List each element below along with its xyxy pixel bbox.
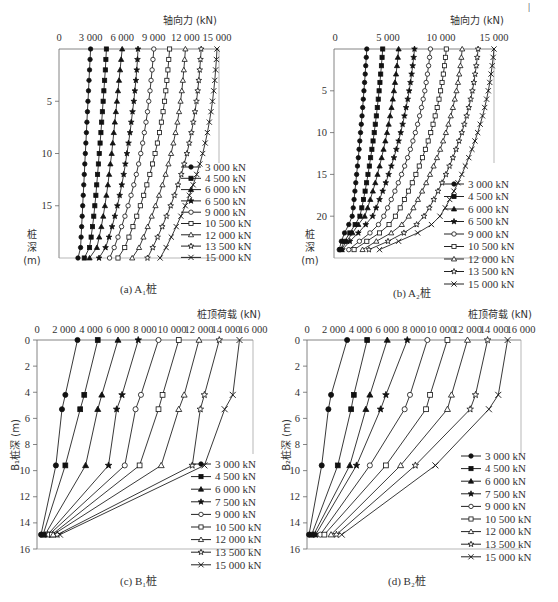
filled-circle-marker-icon — [82, 172, 86, 176]
filled-star-marker-icon — [383, 391, 390, 397]
legend-item: 4 500 kN — [461, 462, 526, 474]
filled-triangle-marker-icon — [375, 172, 380, 177]
filled-circle-marker-icon — [319, 463, 324, 468]
open-star-marker-icon — [473, 63, 479, 68]
legend-item: 9 000 kN — [181, 206, 246, 218]
y-tick-label: 8 — [25, 439, 30, 450]
legend-label: 7 500 kN — [485, 488, 526, 500]
x-tick-label: 10 000 — [426, 324, 455, 335]
open-star-marker-icon — [164, 213, 170, 218]
filled-star-marker-icon — [123, 161, 129, 166]
open-square-marker-icon — [443, 55, 447, 59]
data-series — [312, 337, 410, 538]
filled-circle-marker-icon — [53, 463, 58, 468]
open-circle-marker-icon — [408, 147, 412, 151]
filled-triangle-marker-icon — [105, 182, 110, 187]
open-triangle-marker-icon — [168, 151, 173, 156]
filled-circle-marker-icon — [358, 139, 362, 143]
filled-circle-marker-icon — [365, 47, 369, 51]
legend-label: 13 500 kN — [485, 538, 532, 550]
filled-circle-marker-icon — [199, 462, 203, 466]
open-triangle-marker-icon — [153, 203, 158, 208]
legend-item: 12 000 kN — [444, 253, 515, 265]
open-triangle-marker-icon — [443, 130, 448, 135]
filled-triangle-marker-icon — [97, 235, 102, 240]
svg-text:桩: 桩 — [27, 228, 37, 240]
open-square-marker-icon — [168, 47, 172, 51]
open-square-marker-icon — [431, 122, 435, 126]
open-circle-marker-icon — [393, 189, 397, 193]
open-triangle-marker-icon — [444, 406, 450, 411]
filled-star-marker-icon — [128, 119, 134, 124]
filled-circle-marker-icon — [359, 122, 363, 126]
filled-circle-marker-icon — [83, 151, 87, 155]
open-circle-marker-icon — [149, 78, 153, 82]
filled-star-marker-icon — [380, 188, 386, 193]
open-star-marker-icon — [201, 391, 208, 397]
open-square-marker-icon — [445, 338, 450, 343]
filled-star-marker-icon — [130, 109, 136, 114]
open-star-marker-icon — [188, 243, 194, 248]
filled-circle-marker-icon — [358, 130, 362, 134]
open-square-marker-icon — [164, 89, 168, 93]
filled-circle-marker-icon — [88, 57, 92, 61]
filled-triangle-marker-icon — [104, 193, 109, 198]
open-circle-marker-icon — [428, 47, 432, 51]
filled-square-marker-icon — [90, 225, 94, 229]
filled-circle-marker-icon — [357, 147, 361, 151]
y-tick-label: 2 — [295, 361, 300, 372]
cross-marker-icon — [164, 245, 169, 250]
filled-square-marker-icon — [82, 256, 86, 260]
open-circle-marker-icon — [145, 109, 149, 113]
open-square-marker-icon — [433, 114, 437, 118]
cross-marker-icon — [469, 147, 474, 152]
open-square-marker-icon — [352, 248, 356, 252]
open-square-marker-icon — [176, 338, 181, 343]
open-circle-marker-icon — [405, 155, 409, 159]
open-square-marker-icon — [167, 57, 171, 61]
filled-square-marker-icon — [380, 55, 384, 59]
open-triangle-marker-icon — [420, 189, 425, 194]
svg-text:深: 深 — [27, 242, 37, 253]
figure-canvas: | 轴向力 (kN)03 0006 0009 00012 00015 00051… — [0, 0, 558, 602]
filled-square-marker-icon — [97, 151, 101, 155]
legend-item: 6 000 kN — [461, 475, 526, 487]
open-square-marker-icon — [127, 235, 131, 239]
open-square-marker-icon — [155, 141, 159, 145]
open-triangle-marker-icon — [163, 172, 168, 177]
cross-marker-icon — [174, 224, 179, 229]
filled-star-marker-icon — [400, 121, 406, 126]
filled-triangle-marker-icon — [384, 130, 389, 135]
filled-star-marker-icon — [412, 46, 418, 51]
filled-circle-marker-icon — [75, 337, 80, 342]
filled-circle-marker-icon — [63, 392, 68, 397]
open-square-marker-icon — [377, 231, 381, 235]
x-tick-label: 0 — [332, 32, 337, 43]
y-tick-label: 10 — [42, 148, 53, 159]
filled-star-marker-icon — [135, 56, 141, 61]
open-circle-marker-icon — [189, 210, 193, 214]
x-axis-ticks: 05 00010 00015 000 — [332, 32, 508, 43]
open-circle-marker-icon — [116, 235, 120, 239]
filled-square-marker-icon — [361, 197, 365, 201]
filled-triangle-marker-icon — [83, 462, 89, 467]
x-tick-label: 10 000 — [158, 324, 187, 335]
open-star-marker-icon — [468, 96, 474, 101]
filled-circle-marker-icon — [86, 99, 90, 103]
cross-marker-icon — [466, 155, 471, 160]
filled-star-marker-icon — [370, 213, 376, 218]
y-axis-ticks: 51015 — [42, 96, 60, 212]
open-circle-marker-icon — [107, 256, 111, 260]
data-series — [340, 46, 418, 252]
data-series — [49, 338, 181, 537]
open-star-marker-icon — [431, 196, 437, 201]
filled-square-marker-icon — [98, 141, 102, 145]
open-triangle-marker-icon — [441, 138, 446, 143]
filled-circle-marker-icon — [350, 214, 354, 218]
legend-label: 13 500 kN — [215, 546, 262, 558]
filled-triangle-marker-icon — [389, 105, 394, 110]
filled-star-marker-icon — [103, 245, 109, 250]
open-square-marker-icon — [444, 47, 448, 51]
data-series — [41, 338, 100, 537]
open-square-marker-icon — [157, 131, 161, 135]
